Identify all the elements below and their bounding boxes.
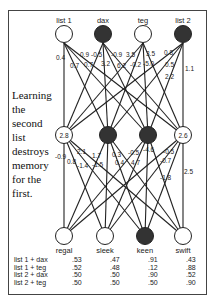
- svg-text:2.2: 2.2: [165, 73, 174, 80]
- svg-text:0.9: 0.9: [80, 51, 89, 58]
- svg-text:0.8: 0.8: [164, 49, 173, 56]
- svg-text:0.3: 0.3: [112, 151, 121, 158]
- svg-text:2.5: 2.5: [184, 168, 193, 175]
- svg-text:6.2: 6.2: [117, 62, 126, 69]
- svg-text:-0.5: -0.5: [91, 51, 103, 58]
- table-row: list 2 + dax .50 .50 .90 .52: [14, 271, 219, 279]
- table-row: list 2 + teg .50 .50 .50 .90: [14, 279, 219, 287]
- svg-text:2.8: 2.8: [59, 132, 68, 139]
- input-layer: list 1 dax teg list 2: [56, 16, 192, 43]
- input-label: dax: [97, 16, 109, 25]
- svg-text:2.6: 2.6: [178, 132, 187, 139]
- svg-text:-0.5: -0.5: [163, 148, 175, 155]
- hidden-layer: 2.8 2.6: [56, 127, 192, 144]
- svg-text:-0.2: -0.2: [130, 61, 142, 68]
- svg-text:0.4: 0.4: [56, 54, 65, 61]
- svg-text:-5.0: -5.0: [143, 60, 155, 67]
- output-node-swift: [175, 228, 192, 245]
- output-label: keen: [137, 246, 153, 255]
- svg-text:2.1: 2.1: [77, 148, 86, 155]
- svg-text:0.4: 0.4: [115, 159, 124, 166]
- svg-text:4.7: 4.7: [131, 159, 140, 166]
- output-node-regal: [56, 228, 73, 245]
- caption: Learning the second list destroys memory…: [12, 88, 58, 200]
- input-label: list 2: [175, 16, 190, 25]
- input-label: list 1: [56, 16, 71, 25]
- input-label: teg: [138, 16, 148, 25]
- input-node-teg: [135, 26, 152, 43]
- svg-text:-0.7: -0.7: [160, 157, 172, 164]
- output-layer: regal sleek keen swift: [56, 228, 192, 256]
- svg-text:0.7: 0.7: [84, 61, 93, 68]
- hidden-node-3: [140, 127, 157, 144]
- output-activation-table: list 1 + dax .53 .47 .91 .43 list 1 + te…: [14, 256, 219, 286]
- svg-text:1.7: 1.7: [92, 152, 101, 159]
- svg-text:3.5: 3.5: [146, 50, 155, 57]
- input-node-list2: [175, 26, 192, 43]
- svg-text:-0.9: -0.9: [111, 51, 123, 58]
- hidden-node-2: [100, 127, 117, 144]
- svg-text:0.5: 0.5: [165, 61, 174, 68]
- svg-text:3.5: 3.5: [126, 51, 135, 58]
- table-row: list 1 + dax .53 .47 .91 .43: [14, 256, 219, 264]
- output-node-sleek: [97, 228, 114, 245]
- svg-text:-1.5: -1.5: [92, 161, 104, 168]
- svg-text:1.1: 1.1: [185, 65, 194, 72]
- svg-text:-4.6: -4.6: [143, 146, 155, 153]
- svg-text:-1.4: -1.4: [77, 162, 89, 169]
- svg-text:-1.8: -1.8: [160, 174, 172, 181]
- svg-text:0.8: 0.8: [67, 158, 76, 165]
- output-node-keen: [137, 228, 154, 245]
- output-label: regal: [56, 246, 73, 255]
- input-node-dax: [95, 26, 112, 43]
- svg-text:0.7: 0.7: [70, 62, 79, 69]
- table-row: list 1 + teg .52 .48 .12 .88: [14, 264, 219, 272]
- output-label: sleek: [96, 246, 114, 255]
- svg-text:3.2: 3.2: [101, 60, 110, 67]
- output-label: swift: [176, 246, 192, 255]
- svg-text:-0.5: -0.5: [128, 149, 140, 156]
- input-node-list1: [56, 26, 73, 43]
